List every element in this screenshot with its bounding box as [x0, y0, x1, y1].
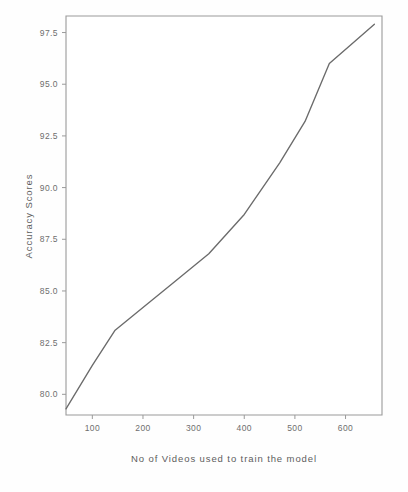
- y-tick-label: 95.0: [40, 79, 58, 89]
- chart-figure: 80.082.585.087.590.092.595.097.5 1002003…: [0, 0, 408, 492]
- y-tick-label: 80.0: [40, 389, 58, 399]
- x-tick-label: 200: [135, 423, 150, 433]
- x-axis-title: No of Videos used to train the model: [131, 453, 317, 464]
- y-tick-label: 82.5: [40, 338, 58, 348]
- y-tick-label: 97.5: [40, 28, 58, 38]
- y-tick-label: 92.5: [40, 131, 58, 141]
- y-tick-label: 90.0: [40, 183, 58, 193]
- x-tick-label: 300: [186, 423, 201, 433]
- x-tick-label: 400: [237, 423, 252, 433]
- plot-area-background: [66, 16, 382, 415]
- y-axis-title: Accuracy Scores: [23, 174, 34, 259]
- y-tick-label: 85.0: [40, 286, 58, 296]
- x-tick-label: 100: [85, 423, 100, 433]
- x-tick-label: 500: [287, 423, 302, 433]
- x-tick-label: 600: [338, 423, 353, 433]
- y-tick-label: 87.5: [40, 234, 58, 244]
- line-chart: 80.082.585.087.590.092.595.097.5 1002003…: [0, 0, 408, 492]
